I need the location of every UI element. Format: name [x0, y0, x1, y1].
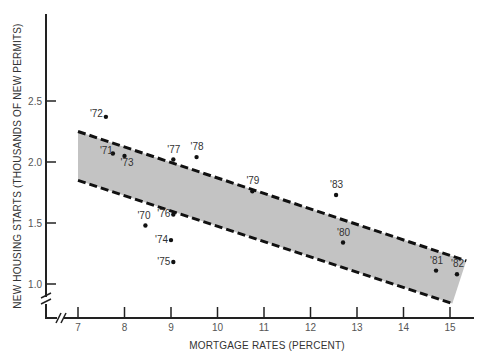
x-axis-title: MORTGAGE RATES (PERCENT): [189, 340, 345, 351]
x-tick-label: 11: [259, 322, 270, 333]
point-label: '73: [121, 157, 134, 168]
point-marker: [194, 155, 198, 159]
data-point: '71: [100, 145, 115, 156]
data-point: '70: [137, 210, 150, 227]
y-tick-label: 2.0: [28, 157, 42, 168]
point-marker: [455, 272, 459, 276]
point-marker: [171, 212, 175, 216]
data-point: '74: [155, 234, 173, 245]
y-tick-label: 2.5: [28, 96, 42, 107]
point-marker: [171, 157, 175, 161]
point-marker: [334, 193, 338, 197]
x-tick-label: 9: [168, 322, 174, 333]
data-point: '72: [90, 108, 108, 119]
point-marker: [434, 268, 438, 272]
point-marker: [169, 238, 173, 242]
point-marker: [171, 260, 175, 264]
data-point: '83: [330, 179, 343, 197]
point-marker: [104, 115, 108, 119]
point-label: '82: [451, 258, 464, 269]
y-tick-label: 1.5: [28, 218, 42, 229]
data-point: '75: [157, 256, 175, 267]
point-marker: [250, 189, 254, 193]
x-tick-label: 12: [305, 322, 317, 333]
point-label: '76: [157, 208, 170, 219]
point-label: '78: [191, 141, 204, 152]
x-tick-label: 15: [444, 322, 456, 333]
trend-band: [78, 132, 466, 304]
point-label: '70: [137, 210, 150, 221]
point-label: '77: [167, 144, 180, 155]
data-point: '78: [191, 141, 204, 159]
x-tick-label: 13: [351, 322, 363, 333]
scatter-chart: 7891011121314151.01.52.02.5 '70'71'72'73…: [0, 0, 487, 360]
x-tick-label: 14: [398, 322, 410, 333]
band-fill: [78, 132, 466, 304]
point-label: '71: [100, 145, 113, 156]
point-marker: [143, 223, 147, 227]
point-label: '79: [246, 175, 259, 186]
point-label: '75: [157, 256, 170, 267]
x-tick-label: 10: [212, 322, 224, 333]
point-label: '74: [155, 234, 168, 245]
point-label: '81: [430, 255, 443, 266]
point-label: '72: [90, 108, 103, 119]
y-tick-label: 1.0: [28, 279, 42, 290]
point-label: '83: [330, 179, 343, 190]
point-marker: [341, 240, 345, 244]
point-label: '80: [337, 227, 350, 238]
x-tick-label: 8: [122, 322, 128, 333]
y-axis-title: NEW HOUSING STARTS (THOUSANDS OF NEW PER…: [12, 23, 23, 308]
data-point: '77: [167, 144, 180, 162]
x-tick-label: 7: [75, 322, 81, 333]
y-axis-break-mark: [41, 299, 51, 304]
